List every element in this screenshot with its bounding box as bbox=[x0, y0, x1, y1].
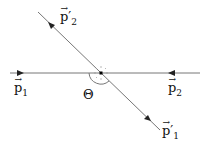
theta-arc bbox=[89, 73, 109, 84]
collision-diagram: →p′2 →p1 →p2 →p′1 Θ bbox=[0, 0, 210, 145]
label-p2-prime: →p′2 bbox=[60, 10, 77, 27]
diagonal-line bbox=[38, 12, 160, 130]
label-theta: Θ bbox=[83, 88, 94, 101]
label-p1-prime: →p′1 bbox=[162, 124, 179, 141]
collision-point bbox=[100, 72, 103, 75]
label-p2: →p2 bbox=[168, 81, 182, 98]
label-p1: →p1 bbox=[14, 81, 28, 98]
